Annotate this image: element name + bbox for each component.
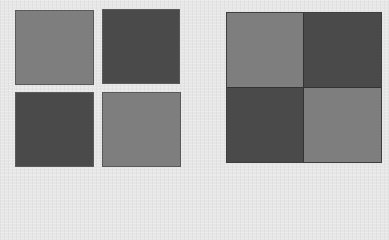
cell-bottom-right-light: [304, 88, 381, 162]
cell-top-left-light: [227, 13, 304, 88]
square-top-left-light: [15, 10, 94, 85]
joined-checkerboard-group: [226, 12, 382, 163]
square-bottom-right-light: [102, 92, 181, 167]
cell-top-right-dark: [304, 13, 381, 88]
square-bottom-left-dark: [15, 92, 94, 167]
cell-bottom-left-dark: [227, 88, 304, 162]
square-top-right-dark: [102, 9, 180, 84]
